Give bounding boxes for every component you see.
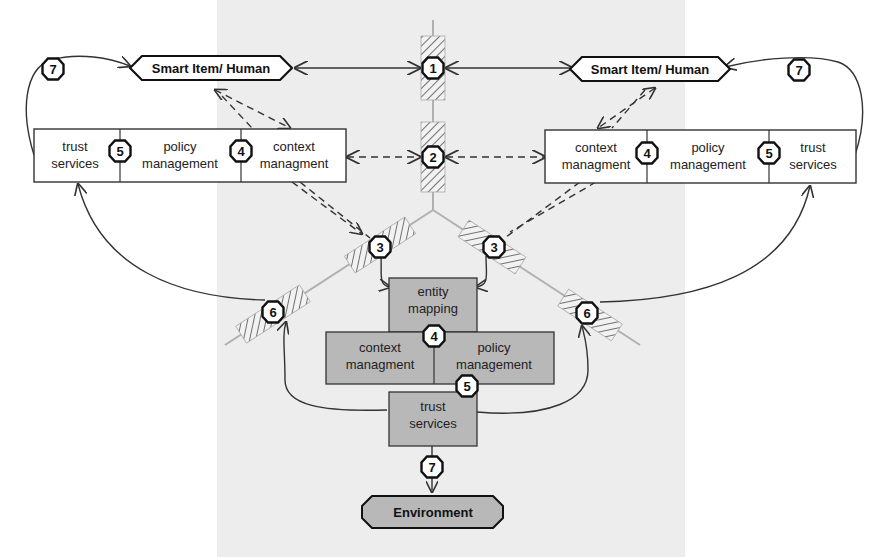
badge-6-right: 6 — [577, 303, 598, 324]
badge-3-right: 3 — [484, 237, 505, 258]
badge-5-left: 5 — [110, 141, 131, 162]
badge-4-right: 4 — [637, 143, 658, 164]
environment-label: Environment — [393, 505, 473, 520]
svg-text:trust: trust — [62, 139, 88, 154]
svg-text:3: 3 — [376, 240, 383, 255]
badge-2: 2 — [423, 147, 444, 168]
left-service-panel: trust services policy management context… — [34, 129, 346, 182]
right-actor-label: Smart Item/ Human — [591, 62, 710, 77]
svg-text:policy: policy — [477, 340, 511, 355]
svg-text:entity: entity — [417, 284, 449, 299]
badge-5-center: 5 — [457, 376, 478, 397]
left-actor-label: Smart Item/ Human — [152, 61, 271, 76]
svg-text:4: 4 — [643, 146, 651, 161]
center-trust-services[interactable]: trust services — [389, 392, 477, 446]
left-actor-node[interactable]: Smart Item/ Human — [130, 56, 292, 80]
security-architecture-diagram: Smart Item/ Human Smart Item/ Human trus… — [0, 0, 885, 557]
svg-text:policy: policy — [163, 139, 197, 154]
badge-7-left: 7 — [43, 59, 64, 80]
right-service-panel: context managment policy management trus… — [545, 130, 856, 183]
badge-6-left: 6 — [263, 302, 284, 323]
svg-text:management: management — [142, 156, 218, 171]
svg-text:management: management — [670, 157, 746, 172]
svg-text:4: 4 — [237, 144, 245, 159]
svg-text:management: management — [456, 357, 532, 372]
svg-text:5: 5 — [463, 379, 470, 394]
svg-text:2: 2 — [429, 150, 436, 165]
svg-text:services: services — [51, 156, 99, 171]
badge-7-right: 7 — [789, 60, 810, 81]
svg-text:7: 7 — [428, 460, 435, 475]
badge-5-right: 5 — [759, 143, 780, 164]
svg-text:3: 3 — [490, 240, 497, 255]
svg-text:5: 5 — [116, 144, 123, 159]
svg-text:context: context — [575, 140, 617, 155]
badge-4-center: 4 — [424, 326, 445, 347]
center-entity-mapping[interactable]: entity mapping — [389, 278, 477, 332]
badge-1: 1 — [423, 58, 444, 79]
svg-text:managment: managment — [562, 157, 631, 172]
badge-3-left: 3 — [370, 237, 391, 258]
svg-text:7: 7 — [795, 63, 802, 78]
svg-text:policy: policy — [691, 140, 725, 155]
svg-text:6: 6 — [269, 305, 276, 320]
svg-text:4: 4 — [430, 329, 438, 344]
svg-text:services: services — [409, 416, 457, 431]
svg-text:context: context — [359, 340, 401, 355]
svg-text:managment: managment — [346, 357, 415, 372]
svg-text:5: 5 — [765, 146, 772, 161]
right-actor-node[interactable]: Smart Item/ Human — [570, 57, 730, 81]
svg-text:services: services — [789, 157, 837, 172]
svg-text:7: 7 — [49, 62, 56, 77]
environment-node[interactable]: Environment — [362, 496, 503, 528]
svg-text:context: context — [273, 139, 315, 154]
badge-7-center: 7 — [422, 457, 443, 478]
svg-text:managment: managment — [260, 156, 329, 171]
svg-text:6: 6 — [583, 306, 590, 321]
badge-4-left: 4 — [231, 141, 252, 162]
svg-text:trust: trust — [800, 140, 826, 155]
svg-text:1: 1 — [429, 61, 436, 76]
svg-text:mapping: mapping — [408, 301, 458, 316]
svg-text:trust: trust — [420, 399, 446, 414]
